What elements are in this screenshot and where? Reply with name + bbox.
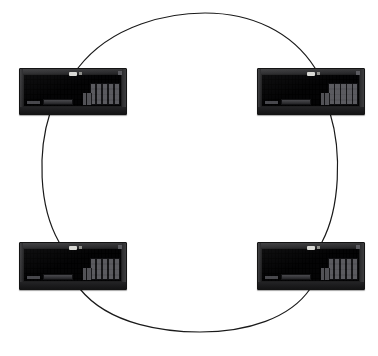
keyboard-bottom-bezel <box>20 107 126 114</box>
node-bottom-left[interactable] <box>19 242 125 288</box>
keyboard-corner-port-icon <box>118 71 122 75</box>
keyboard-bottom-bezel <box>20 282 126 289</box>
keyboard-device[interactable] <box>257 68 365 115</box>
keyboard-secondary-led-icon <box>317 72 320 75</box>
ring-connection-lines <box>0 0 378 356</box>
keyboard-numpad <box>328 258 358 280</box>
keyboard-secondary-led-icon <box>79 72 82 75</box>
link-left <box>42 113 59 242</box>
keyboard-numpad <box>90 258 120 280</box>
keyboard-status-led-icon <box>69 72 77 76</box>
keyboard-status-led-icon <box>307 72 315 76</box>
keyboard-spacebar <box>281 99 311 105</box>
link-top-arc <box>78 13 315 68</box>
keyboard-status-led-icon <box>69 246 77 250</box>
keyboard-numpad <box>90 83 120 105</box>
keyboard-bottom-bezel <box>258 282 364 289</box>
keyboard-brand-label <box>265 101 278 104</box>
keyboard-arrow-keys <box>83 93 93 105</box>
keyboard-arrow-keys <box>321 93 331 105</box>
keyboard-corner-port-icon <box>118 245 122 249</box>
node-bottom-right[interactable] <box>257 242 363 288</box>
keyboard-device[interactable] <box>19 242 127 290</box>
keyboard-secondary-led-icon <box>79 246 82 249</box>
link-right <box>322 113 338 242</box>
node-top-right[interactable] <box>257 68 363 113</box>
keyboard-brand-label <box>265 276 278 279</box>
keyboard-bottom-bezel <box>258 107 364 114</box>
keyboard-brand-label <box>27 276 40 279</box>
keyboard-spacebar <box>43 274 73 280</box>
keyboard-arrow-keys <box>321 268 331 280</box>
keyboard-device[interactable] <box>19 68 127 115</box>
keyboard-brand-label <box>27 101 40 104</box>
keyboard-spacebar <box>43 99 73 105</box>
link-bottom <box>80 289 310 332</box>
topology-diagram-canvas <box>0 0 378 356</box>
keyboard-device[interactable] <box>257 242 365 290</box>
keyboard-arrow-keys <box>83 268 93 280</box>
keyboard-corner-port-icon <box>356 245 360 249</box>
keyboard-spacebar <box>281 274 311 280</box>
node-top-left[interactable] <box>19 68 125 113</box>
keyboard-secondary-led-icon <box>317 246 320 249</box>
keyboard-corner-port-icon <box>356 71 360 75</box>
keyboard-status-led-icon <box>307 246 315 250</box>
keyboard-numpad <box>328 83 358 105</box>
